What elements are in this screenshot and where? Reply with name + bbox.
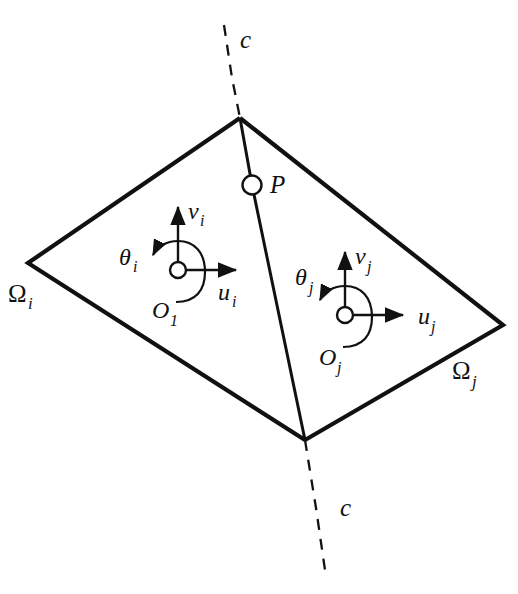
axis-u-j-subscript: j: [429, 318, 436, 336]
rotation-angle-i-label: θ i: [119, 244, 137, 275]
domain-label-left: Ω i: [8, 280, 33, 313]
interface-curve-dashed-bottom: [305, 440, 325, 570]
interface-node-p: [243, 176, 262, 195]
frame-origin-j-subscript: j: [335, 359, 342, 377]
interface-curve-label-top: c: [240, 26, 251, 53]
axis-v-j-symbol: v: [355, 243, 366, 269]
rotation-angle-i-symbol: θ: [119, 244, 131, 270]
frame-origin-i-label: O 1: [152, 297, 178, 329]
domain-label-left-subscript: i: [28, 294, 33, 313]
diagram-canvas: P c c Ω i Ω j v: [0, 0, 518, 594]
rotation-angle-j-subscript: j: [307, 279, 314, 297]
domain-label-left-symbol: Ω: [8, 280, 27, 307]
axis-v-i-subscript: i: [200, 212, 204, 229]
subdomain-outline-right: [240, 118, 503, 440]
frame-origin-i: [170, 262, 186, 278]
figure-container: P c c Ω i Ω j v: [0, 0, 518, 594]
frame-origin-i-subscript: 1: [170, 312, 178, 329]
frame-origin-j-symbol: O: [319, 344, 336, 370]
local-frame-j: v j u j θ j O j: [295, 243, 436, 377]
rotation-angle-i-subscript: i: [133, 258, 137, 275]
axis-v-i-symbol: v: [188, 198, 199, 224]
frame-origin-j: [337, 307, 353, 323]
axis-u-i-symbol: u: [218, 279, 230, 305]
local-frame-i: v i u i θ i O 1: [119, 198, 236, 329]
axis-u-j-label: u j: [418, 303, 436, 336]
rotation-angle-j-symbol: θ: [295, 264, 307, 290]
frame-origin-j-label: O j: [319, 344, 342, 377]
rotation-angle-j-label: θ j: [295, 264, 314, 297]
domain-label-right-subscript: j: [470, 372, 477, 391]
frame-origin-i-symbol: O: [152, 297, 169, 323]
axis-u-j-symbol: u: [418, 303, 430, 329]
subdomain-outline-left: [28, 118, 305, 440]
interface-curve-label-bottom: c: [340, 494, 351, 521]
domain-label-right: Ω j: [452, 357, 477, 391]
interface-node-p-label: P: [269, 171, 285, 198]
interface-curve-dashed-top: [224, 25, 240, 118]
axis-u-i-label: u i: [218, 279, 236, 310]
domain-label-right-symbol: Ω: [452, 357, 471, 384]
axis-v-i-label: v i: [188, 198, 204, 229]
axis-u-i-subscript: i: [232, 293, 236, 310]
axis-v-j-subscript: j: [365, 258, 372, 276]
axis-v-j-label: v j: [355, 243, 372, 276]
